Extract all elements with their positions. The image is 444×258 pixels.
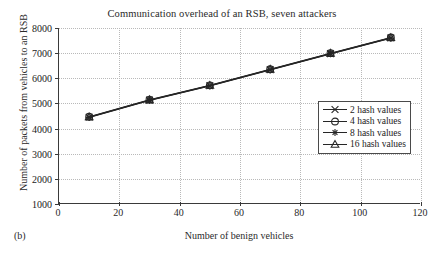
y-tick <box>55 204 59 205</box>
gridline-vertical <box>421 28 422 203</box>
legend-label: 16 hash values <box>348 139 406 149</box>
legend-item-4[interactable]: 16 hash values <box>322 139 406 151</box>
legend-label: 4 hash values <box>348 116 401 126</box>
marker-asterisk <box>332 129 339 136</box>
x-tick-label: 20 <box>113 207 123 218</box>
legend-symbol-asterisk <box>322 127 348 138</box>
y-tick-label: 3000 <box>0 148 52 159</box>
y-tick-label: 1000 <box>0 199 52 210</box>
y-tick-label: 7000 <box>0 48 52 59</box>
legend-item-2[interactable]: 4 hash values <box>322 116 406 128</box>
chart-title: Communication overhead of an RSB, seven … <box>0 8 444 19</box>
chart-legend[interactable]: 2 hash values4 hash values8 hash values1… <box>318 101 411 154</box>
x-tick-label: 40 <box>174 207 184 218</box>
x-axis-label: Number of benign vehicles <box>58 230 420 241</box>
figure-panel-b: Communication overhead of an RSB, seven … <box>0 0 444 258</box>
x-tick-label: 120 <box>413 207 428 218</box>
y-tick-label: 6000 <box>0 73 52 84</box>
x-tick <box>421 202 422 206</box>
y-tick-label: 2000 <box>0 173 52 184</box>
y-tick-label: 8000 <box>0 23 52 34</box>
y-tick-label: 4000 <box>0 123 52 134</box>
legend-symbol-triangle <box>322 139 348 150</box>
legend-item-1[interactable]: 2 hash values <box>322 104 406 116</box>
panel-label: (b) <box>14 230 26 241</box>
legend-label: 2 hash values <box>348 105 401 115</box>
legend-item-3[interactable]: 8 hash values <box>322 127 406 139</box>
x-tick-label: 0 <box>56 207 61 218</box>
x-tick-label: 80 <box>294 207 304 218</box>
y-tick-label: 5000 <box>0 98 52 109</box>
legend-symbol-circle <box>322 116 348 127</box>
x-tick-label: 60 <box>234 207 244 218</box>
x-tick-label: 100 <box>352 207 367 218</box>
legend-symbol-cross <box>322 104 348 115</box>
marker-triangle <box>331 140 339 147</box>
legend-label: 8 hash values <box>348 128 401 138</box>
